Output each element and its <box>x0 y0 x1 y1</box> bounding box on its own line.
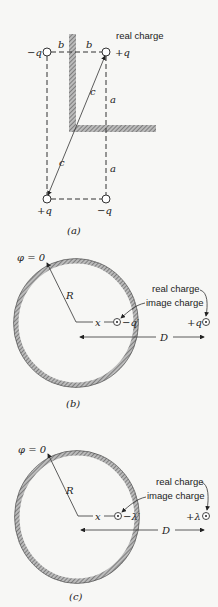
potential-label: φ = 0 <box>18 444 47 455</box>
distance-a-label: a <box>110 163 116 174</box>
potential-label: φ = 0 <box>17 252 46 263</box>
charge-circle-icon <box>43 195 51 203</box>
distance-b-label: b <box>58 39 64 50</box>
charge-circle-icon <box>43 48 51 56</box>
x-label: x <box>95 511 101 522</box>
charge-circle-icon <box>102 195 110 203</box>
real-charge-label: real charge <box>116 30 164 41</box>
image-charge-value: −λ′ <box>123 511 141 522</box>
figure-caption: (a) <box>67 225 81 236</box>
figure-c: φ = 0 R x −λ′ +λ real charge image charg… <box>15 444 210 602</box>
horizontal-conducting-plane <box>76 125 156 132</box>
charge-label: −q <box>97 205 112 216</box>
figure-caption: (b) <box>66 398 80 409</box>
real-charge-value: +q <box>187 317 202 328</box>
radius-label: R <box>65 290 74 301</box>
distance-c-label: c <box>90 86 96 97</box>
charge-label: +q <box>37 205 52 216</box>
figure-caption: (c) <box>69 591 83 602</box>
distance-c-label: c <box>59 157 65 168</box>
figure-a: real charge −q +q +q −q b b c c a a (a) <box>27 30 164 236</box>
distance-a-label: a <box>110 94 116 105</box>
image-charge-label: image charge <box>146 297 204 308</box>
vertical-conducting-plane <box>69 34 76 132</box>
image-charge-value: −q′ <box>122 317 140 328</box>
radius-label: R <box>65 485 74 496</box>
real-charge-value: +λ <box>186 511 201 522</box>
charge-label: +q <box>115 47 130 58</box>
image-charge-label: image charge <box>147 490 205 501</box>
figure-b: φ = 0 R x −q′ +q real charge image charg… <box>14 252 210 409</box>
real-charge-label: real charge <box>152 283 200 294</box>
x-label: x <box>95 317 101 328</box>
distance-d-label: D <box>159 332 168 343</box>
real-charge-label: real charge <box>156 476 204 487</box>
charge-circle-icon <box>102 48 110 56</box>
distance-b-label: b <box>86 39 92 50</box>
charge-label: −q <box>27 47 42 58</box>
distance-d-label: D <box>161 525 170 536</box>
